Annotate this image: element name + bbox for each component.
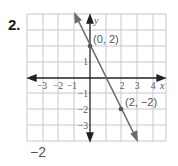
x-tick-label: −3 [37, 81, 47, 91]
point-label-0-2: (0, 2) [93, 33, 119, 45]
x-tick-label: 3 [135, 81, 140, 91]
y-tick-label: −2 [78, 105, 88, 115]
answer-text: −2 [30, 144, 46, 160]
coordinate-graph: y x −3 −2 −1 2 3 4 1 −1 −2 −3 (0, 2) (2,… [0, 0, 178, 166]
y-tick-label: −1 [78, 89, 88, 99]
x-tick-label: 4 [151, 81, 156, 91]
x-tick-label: 2 [120, 81, 125, 91]
point-label-2-neg2: (2, −2) [125, 96, 157, 108]
y-tick-label: 1 [83, 57, 88, 67]
x-axis-label: x [159, 80, 165, 91]
point-2-neg2 [119, 107, 124, 112]
y-axis-label: y [93, 15, 99, 26]
x-tick-label: −2 [53, 81, 63, 91]
x-tick-label: −1 [67, 81, 77, 91]
y-tick-label: −3 [78, 121, 88, 131]
point-0-2 [88, 44, 93, 49]
x-axis [28, 75, 165, 81]
